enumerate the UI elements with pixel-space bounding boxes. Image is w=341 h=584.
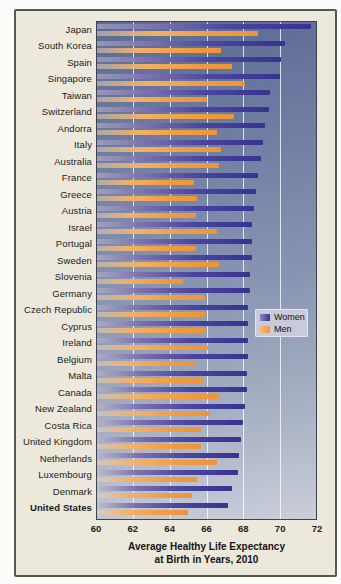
label-row: Costa Rica	[0, 419, 92, 436]
bar-women	[97, 338, 248, 343]
category-label: Ireland	[0, 337, 92, 349]
category-label: Netherlands	[0, 452, 92, 464]
bar-women	[97, 486, 232, 491]
x-tick-label-66: 66	[201, 523, 212, 534]
women-swatch-icon	[260, 314, 270, 321]
label-row: Australia	[0, 155, 92, 172]
category-label: Italy	[0, 139, 92, 151]
bar-men	[97, 493, 192, 498]
bar-men	[97, 394, 219, 399]
category-label: Taiwan	[0, 89, 92, 101]
bar-women	[97, 189, 256, 194]
category-label: Sweden	[0, 254, 92, 266]
category-label: South Korea	[0, 40, 92, 52]
bar-women	[97, 41, 285, 46]
bar-women	[97, 123, 265, 128]
bar-women	[97, 24, 311, 29]
bar-row	[97, 272, 316, 289]
category-label: Switzerland	[0, 106, 92, 118]
bar-men	[97, 444, 201, 449]
label-row: Taiwan	[0, 89, 92, 106]
x-axis-tick-labels: 60626466687072	[0, 523, 341, 535]
bar-men	[97, 328, 205, 333]
bar-men	[97, 130, 217, 135]
category-label: Germany	[0, 287, 92, 299]
bar-men	[97, 345, 208, 350]
label-row: Austria	[0, 205, 92, 222]
bar-women	[97, 239, 252, 244]
label-row: Czech Republic	[0, 304, 92, 321]
category-label: Canada	[0, 386, 92, 398]
category-label: Slovenia	[0, 271, 92, 283]
bar-women	[97, 453, 239, 458]
bar-row	[97, 239, 316, 256]
bar-men	[97, 262, 219, 267]
legend-women-label: Women	[274, 312, 305, 322]
label-row: Denmark	[0, 485, 92, 502]
bar-row	[97, 486, 316, 503]
category-label: Greece	[0, 188, 92, 200]
bar-men	[97, 229, 217, 234]
label-row: Andorra	[0, 122, 92, 139]
bar-row	[97, 156, 316, 173]
label-row: Italy	[0, 139, 92, 156]
bar-men	[97, 147, 221, 152]
bar-row	[97, 24, 316, 41]
bar-women	[97, 288, 250, 293]
category-labels: JapanSouth KoreaSpainSingaporeTaiwanSwit…	[0, 23, 92, 518]
bar-women	[97, 404, 245, 409]
bar-row	[97, 140, 316, 157]
bar-women	[97, 255, 252, 260]
bar-men	[97, 411, 210, 416]
bar-row	[97, 437, 316, 454]
bar-men	[97, 163, 219, 168]
bar-row	[97, 41, 316, 58]
label-row: Ireland	[0, 337, 92, 354]
legend-men-label: Men	[274, 324, 292, 334]
label-row: Germany	[0, 287, 92, 304]
category-label: Australia	[0, 155, 92, 167]
bar-row	[97, 453, 316, 470]
bar-women	[97, 57, 281, 62]
bar-men	[97, 97, 207, 102]
bar-men	[97, 510, 188, 515]
category-label: Costa Rica	[0, 419, 92, 431]
bar-men	[97, 477, 197, 482]
bar-men	[97, 246, 196, 251]
category-label: Denmark	[0, 485, 92, 497]
bar-men	[97, 312, 205, 317]
label-row: France	[0, 172, 92, 189]
category-label: Belgium	[0, 353, 92, 365]
bar-men	[97, 427, 201, 432]
bar-women	[97, 371, 247, 376]
label-row: Slovenia	[0, 271, 92, 288]
bar-men	[97, 114, 234, 119]
bar-row	[97, 420, 316, 437]
bar-men	[97, 64, 232, 69]
bar-women	[97, 222, 252, 227]
label-row: United Kingdom	[0, 436, 92, 453]
bar-row	[97, 74, 316, 91]
x-tick-label-72: 72	[312, 523, 323, 534]
bar-row	[97, 404, 316, 421]
bar-row	[97, 288, 316, 305]
bar-row	[97, 371, 316, 388]
bar-men	[97, 213, 196, 218]
x-tick-label-70: 70	[275, 523, 286, 534]
bar-row	[97, 90, 316, 107]
bar-women	[97, 437, 241, 442]
chart-plot-area	[96, 21, 317, 520]
label-row: Canada	[0, 386, 92, 403]
label-row: Singapore	[0, 73, 92, 90]
bar-women	[97, 470, 238, 475]
bar-row	[97, 107, 316, 124]
bar-row	[97, 173, 316, 190]
label-row: Sweden	[0, 254, 92, 271]
category-label: Israel	[0, 221, 92, 233]
label-row: Belgium	[0, 353, 92, 370]
bar-women	[97, 321, 248, 326]
bar-women	[97, 420, 243, 425]
bar-women	[97, 156, 261, 161]
x-tick-label-64: 64	[164, 523, 175, 534]
category-label: Luxembourg	[0, 469, 92, 481]
